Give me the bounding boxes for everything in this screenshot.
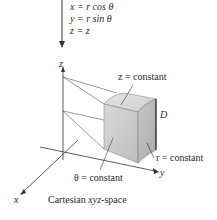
- transform-arrow: [59, 0, 65, 48]
- caption-suffix: -space: [101, 194, 127, 205]
- side-face: [138, 99, 156, 163]
- caption-prefix: Cartesian: [48, 194, 88, 205]
- equation-x: x = r cos θ: [69, 1, 113, 12]
- z-constant-label: z = constant: [118, 71, 167, 82]
- region-d-label: D: [159, 109, 168, 120]
- caption-italic: xyz: [87, 194, 101, 205]
- equation-y: y = r sin θ: [69, 13, 112, 24]
- region-d-solid: [104, 93, 156, 163]
- r-constant-label: r = constant: [156, 152, 204, 163]
- z-axis-label: z: [58, 58, 63, 69]
- y-axis-label: y: [159, 167, 165, 178]
- cartesian-region-diagram: x = r cos θ y = r sin θ z = z: [0, 0, 217, 220]
- x-axis: [22, 140, 78, 193]
- y-arrow-icon: [153, 168, 159, 174]
- theta-constant-label: θ = constant: [74, 172, 123, 183]
- equation-z: z = z: [69, 25, 90, 36]
- caption: Cartesian xyz-space: [48, 194, 127, 205]
- front-face: [104, 104, 138, 163]
- equations: x = r cos θ y = r sin θ z = z: [69, 1, 113, 36]
- x-axis-label: x: [13, 194, 19, 205]
